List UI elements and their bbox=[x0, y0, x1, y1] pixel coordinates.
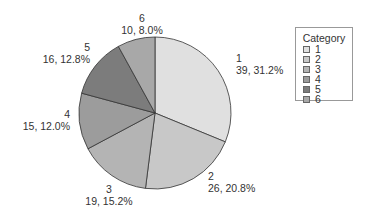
slice-5-value: 16, 12.8% bbox=[0, 53, 90, 65]
legend-item-5: 5 bbox=[303, 84, 352, 94]
slice-4-name: 4 bbox=[0, 108, 70, 120]
legend-item-2: 2 bbox=[303, 54, 352, 64]
legend-label: 6 bbox=[315, 94, 321, 104]
legend-swatch bbox=[303, 56, 310, 63]
slice-label-2: 2 26, 20.8% bbox=[208, 170, 255, 194]
slice-label-1: 1 39, 31.2% bbox=[236, 52, 283, 76]
slice-3-value: 19, 15.2% bbox=[74, 195, 144, 207]
slice-6-value: 10, 8.0% bbox=[92, 24, 192, 36]
slice-5-name: 5 bbox=[0, 41, 90, 53]
legend-swatch bbox=[303, 86, 310, 93]
legend-title: Category bbox=[296, 32, 352, 44]
legend-swatch bbox=[303, 76, 310, 83]
legend-swatch bbox=[303, 66, 310, 73]
legend-swatch bbox=[303, 96, 310, 103]
legend-item-6: 6 bbox=[303, 94, 352, 104]
slice-6-name: 6 bbox=[92, 12, 192, 24]
slice-label-4: 4 15, 12.0% bbox=[0, 108, 70, 132]
slice-3-name: 3 bbox=[74, 183, 144, 195]
slice-1-name: 1 bbox=[236, 52, 283, 64]
legend: Category 1 2 3 4 5 6 bbox=[295, 27, 353, 101]
slice-2-value: 26, 20.8% bbox=[208, 182, 255, 194]
legend-item-1: 1 bbox=[303, 44, 352, 54]
slice-label-5: 5 16, 12.8% bbox=[0, 41, 90, 65]
slice-label-6: 6 10, 8.0% bbox=[92, 12, 192, 36]
slice-label-3: 3 19, 15.2% bbox=[74, 183, 144, 207]
legend-item-4: 4 bbox=[303, 74, 352, 84]
legend-item-3: 3 bbox=[303, 64, 352, 74]
legend-swatch bbox=[303, 46, 310, 53]
slice-4-value: 15, 12.0% bbox=[0, 120, 70, 132]
slice-2-name: 2 bbox=[208, 170, 255, 182]
slice-1-value: 39, 31.2% bbox=[236, 64, 283, 76]
